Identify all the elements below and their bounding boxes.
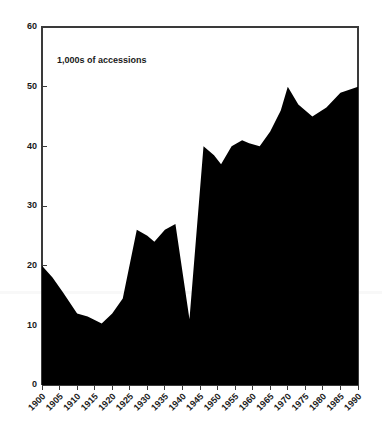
- y-tick-label-0: 0: [32, 379, 37, 389]
- data-area-series: [42, 87, 358, 385]
- x-tick-label-1910: 1910: [61, 391, 82, 412]
- x-tick-label-1970: 1970: [272, 391, 293, 412]
- x-tick-label-1940: 1940: [167, 391, 188, 412]
- x-tick-label-1960: 1960: [237, 391, 258, 412]
- y-tick-label-60: 60: [27, 21, 37, 31]
- x-tick-label-1900: 1900: [26, 391, 47, 412]
- x-tick-marks: [42, 385, 358, 390]
- y-tick-label-20: 20: [27, 260, 37, 270]
- x-tick-label-1935: 1935: [149, 391, 170, 412]
- x-tick-label-1925: 1925: [114, 391, 135, 412]
- x-tick-label-1980: 1980: [307, 391, 328, 412]
- x-tick-label-1920: 1920: [96, 391, 117, 412]
- y-tick-label-50: 50: [27, 81, 37, 91]
- x-tick-labels: 1900190519101915192019251930193519401945…: [26, 391, 363, 412]
- y-tick-label-30: 30: [27, 200, 37, 210]
- x-tick-label-1945: 1945: [184, 391, 205, 412]
- x-tick-label-1950: 1950: [202, 391, 223, 412]
- chart-container: 0 10 20 30 40 50 60 19001905191019151920…: [0, 0, 382, 443]
- y-tick-labels: 0 10 20 30 40 50 60: [27, 21, 37, 389]
- x-tick-label-1965: 1965: [254, 391, 275, 412]
- x-tick-label-1975: 1975: [290, 391, 311, 412]
- x-tick-label-1915: 1915: [79, 391, 100, 412]
- y-tick-label-10: 10: [27, 320, 37, 330]
- x-tick-label-1955: 1955: [219, 391, 240, 412]
- area-chart: 0 10 20 30 40 50 60 19001905191019151920…: [0, 0, 382, 443]
- x-tick-label-1905: 1905: [44, 391, 65, 412]
- y-tick-label-40: 40: [27, 141, 37, 151]
- x-tick-label-1930: 1930: [132, 391, 153, 412]
- x-tick-label-1985: 1985: [325, 391, 346, 412]
- units-annotation: 1,000s of accessions: [57, 55, 147, 65]
- x-tick-label-1990: 1990: [342, 391, 363, 412]
